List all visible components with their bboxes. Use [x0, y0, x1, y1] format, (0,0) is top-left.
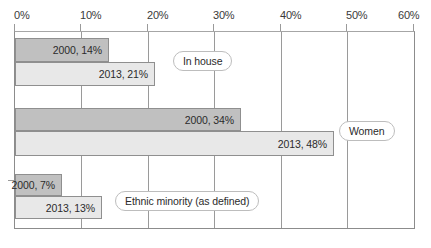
x-axis-tick-label-30: 30% — [213, 9, 234, 21]
plot-area: 2000, 14% 2013, 21% 2000, 34% 2013, 48% … — [14, 31, 415, 229]
bar-women-2013: 2013, 48% — [15, 131, 334, 156]
x-axis-tick-label-50: 50% — [346, 9, 367, 21]
bar-ethnic-minority-2013: 2013, 13% — [15, 196, 102, 219]
x-axis-tick-label-40: 40% — [280, 9, 301, 21]
bar-women-2000: 2000, 34% — [15, 108, 241, 131]
bar-label-women-2000: 2000, 34% — [185, 114, 240, 126]
bar-label-in-house-2013: 2013, 21% — [99, 68, 154, 80]
x-axis-tick-label-0: 0% — [14, 9, 30, 21]
gridline-40 — [281, 32, 282, 228]
x-axis-tick-label-10: 10% — [80, 9, 101, 21]
bar-in-house-2000: 2000, 14% — [15, 38, 109, 62]
bar-in-house-2013: 2013, 21% — [15, 62, 155, 86]
bar-label-ethnic-minority-2013: 2013, 13% — [46, 202, 101, 214]
category-callout-in-house: In house — [173, 51, 232, 71]
x-axis-tick-label-60: 60% — [398, 9, 419, 21]
bar-label-ethnic-minority-2000: 2000, 7% — [11, 179, 61, 191]
bar-ethnic-minority-2000: 2000, 7% — [15, 174, 62, 196]
bar-label-women-2013: 2013, 48% — [278, 138, 333, 150]
x-axis-tick-label-20: 20% — [147, 9, 168, 21]
bar-chart: 0% 10% 20% 30% 40% 50% 60% 2000, 14% 201… — [0, 0, 431, 248]
category-callout-ethnic-minority: Ethnic minority (as defined) — [115, 191, 259, 211]
bar-label-in-house-2000: 2000, 14% — [53, 44, 108, 56]
category-callout-women: Women — [339, 121, 395, 141]
